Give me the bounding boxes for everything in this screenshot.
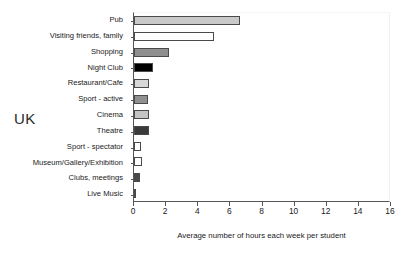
category-label: Visiting friends, family	[0, 28, 128, 44]
bar	[134, 157, 142, 166]
plot-area	[133, 12, 390, 202]
y-axis-tick	[131, 195, 135, 196]
category-label: Sport - spectator	[0, 139, 128, 155]
x-axis-tick-label: 4	[195, 206, 200, 216]
bar	[134, 32, 214, 41]
y-axis-tick	[131, 100, 135, 101]
bar	[134, 142, 141, 151]
y-axis-tick	[131, 179, 135, 180]
y-axis-tick	[131, 84, 135, 85]
bar-row	[134, 107, 389, 123]
x-axis-tick-label: 2	[163, 206, 168, 216]
y-axis-tick	[131, 163, 135, 164]
bar-row	[134, 185, 389, 201]
category-label: Live Music	[0, 186, 128, 202]
bar-row	[134, 44, 389, 60]
bar	[134, 95, 148, 104]
y-axis-tick	[131, 68, 135, 69]
category-label: Museum/Gallery/Exhibition	[0, 154, 128, 170]
bar-row	[134, 154, 389, 170]
bar-chart-figure: UK PubVisiting friends, familyShoppingNi…	[0, 0, 403, 255]
category-label: Pub	[0, 12, 128, 28]
category-label: Cinema	[0, 107, 128, 123]
category-label: Shopping	[0, 44, 128, 60]
bar-row	[134, 123, 389, 139]
bar	[134, 173, 140, 182]
bar-series	[134, 13, 389, 201]
x-axis-tick-label: 12	[321, 206, 330, 216]
x-axis-tick-label: 16	[385, 206, 394, 216]
x-axis-tick-labels: 0246810121416	[133, 206, 390, 222]
x-axis-title: Average number of hours each week per st…	[133, 231, 390, 240]
bar-row	[134, 60, 389, 76]
bar	[134, 63, 153, 72]
bar-row	[134, 29, 389, 45]
category-label: Restaurant/Cafe	[0, 75, 128, 91]
category-label: Sport - active	[0, 91, 128, 107]
y-axis-tick	[131, 132, 135, 133]
x-axis-tick-label: 10	[289, 206, 298, 216]
bar	[134, 48, 169, 57]
y-axis-tick	[131, 148, 135, 149]
bar	[134, 126, 149, 135]
bar-row	[134, 170, 389, 186]
bar	[134, 79, 149, 88]
y-axis-tick	[131, 37, 135, 38]
category-label: Theatre	[0, 123, 128, 139]
bar-row	[134, 13, 389, 29]
y-axis-tick	[131, 116, 135, 117]
x-axis-tick-label: 14	[353, 206, 362, 216]
bar	[134, 16, 240, 25]
category-axis-labels: PubVisiting friends, familyShoppingNight…	[0, 12, 128, 202]
bar	[134, 110, 149, 119]
y-axis-tick	[131, 53, 135, 54]
bar	[134, 189, 136, 198]
x-axis-tick-label: 6	[227, 206, 232, 216]
bar-row	[134, 91, 389, 107]
category-label: Night Club	[0, 59, 128, 75]
x-axis-tick-label: 8	[259, 206, 264, 216]
bar-row	[134, 138, 389, 154]
category-label: Clubs, meetings	[0, 170, 128, 186]
bar-row	[134, 76, 389, 92]
x-axis-tick-label: 0	[131, 206, 136, 216]
y-axis-tick	[131, 21, 135, 22]
